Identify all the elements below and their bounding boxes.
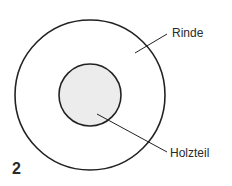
inner-circle-holzteil — [59, 64, 121, 126]
holzteil-leader-line — [97, 114, 167, 152]
holzteil-label: Holzteil — [170, 146, 209, 160]
figure-number: 2 — [12, 160, 21, 178]
rinde-label: Rinde — [172, 26, 203, 40]
